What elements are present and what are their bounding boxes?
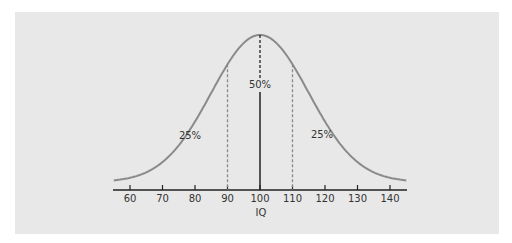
- x-tick-label: 130: [348, 193, 367, 204]
- x-tick-label: 140: [380, 193, 399, 204]
- bell-curve-chart: 60708090100110120130140 25% 50% 25% IQ: [0, 0, 512, 243]
- x-tick-label: 60: [124, 193, 137, 204]
- center-percentage-label: 50%: [249, 79, 271, 90]
- x-tick-label: 70: [156, 193, 169, 204]
- x-axis-ticks: 60708090100110120130140: [124, 185, 400, 204]
- x-axis-title: IQ: [256, 207, 267, 218]
- left-percentage-label: 25%: [179, 130, 201, 141]
- x-tick-label: 120: [315, 193, 334, 204]
- x-tick-label: 110: [283, 193, 302, 204]
- x-tick-label: 80: [189, 193, 202, 204]
- right-percentage-label: 25%: [311, 129, 333, 140]
- x-tick-label: 90: [221, 193, 234, 204]
- x-tick-label: 100: [250, 193, 269, 204]
